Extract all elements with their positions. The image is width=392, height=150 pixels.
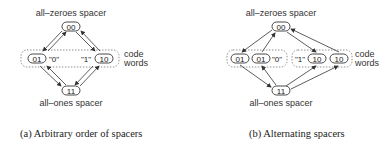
symbol-one: "1"	[81, 55, 91, 64]
svg-text:10: 10	[100, 55, 109, 64]
svg-text:01: 01	[33, 55, 42, 64]
bottom-label: all–ones spacer	[39, 98, 102, 108]
svg-text:10: 10	[335, 55, 344, 64]
symbol-zero: "0"	[49, 55, 59, 64]
panel-b: all–zeroes spacer 00 01 01 "0" "1" 10 10…	[227, 8, 380, 140]
node-11: 11	[62, 86, 80, 96]
group-label-words: words	[123, 58, 149, 68]
node-10: 10	[95, 54, 113, 64]
bottom-label: all–ones spacer	[249, 98, 312, 108]
node-01-second: 01	[252, 54, 270, 64]
top-label: all–zeroes spacer	[246, 8, 317, 18]
node-01: 01	[28, 54, 46, 64]
node-11: 11	[272, 86, 290, 96]
group-label-words: words	[354, 58, 380, 68]
symbol-zero: "0"	[272, 55, 282, 64]
node-01-first: 01	[231, 54, 249, 64]
svg-text:01: 01	[236, 55, 245, 64]
node-00: 00	[62, 22, 80, 32]
svg-text:00: 00	[277, 23, 286, 32]
node-10-second: 10	[330, 54, 348, 64]
top-label: all–zeroes spacer	[36, 8, 107, 18]
spacer-diagrams: all–zeroes spacer 00 01 "0" "1" 10 code …	[0, 0, 392, 150]
panel-a: all–zeroes spacer 00 01 "0" "1" 10 code …	[20, 8, 149, 140]
svg-text:01: 01	[257, 55, 266, 64]
svg-text:11: 11	[277, 87, 286, 96]
node-00: 00	[272, 22, 290, 32]
symbol-one: "1"	[295, 55, 305, 64]
node-10-first: 10	[308, 54, 326, 64]
svg-text:11: 11	[67, 87, 76, 96]
caption-a: (a) Arbitrary order of spacers	[20, 128, 142, 140]
svg-text:10: 10	[313, 55, 322, 64]
caption-b: (b) Alternating spacers	[249, 128, 345, 140]
svg-text:00: 00	[67, 23, 76, 32]
